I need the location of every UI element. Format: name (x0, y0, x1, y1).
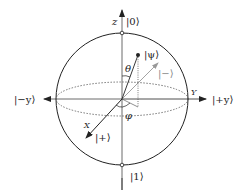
one-state-label: |1⟩ (130, 171, 144, 183)
phi-label: φ (125, 110, 132, 121)
z-axis-label: z (111, 16, 118, 27)
minus-state-label: |−⟩ (158, 68, 174, 80)
y-axis-label: Y (191, 88, 197, 97)
psi-point (136, 53, 140, 57)
x-axis-label: X (83, 121, 90, 130)
psi-label: |ψ⟩ (144, 49, 159, 61)
theta-label: θ (125, 63, 131, 74)
zero-state-label: |0⟩ (126, 16, 140, 28)
plus-y-state-label: |+y⟩ (212, 94, 233, 106)
minus-y-state-label: |−y⟩ (14, 94, 35, 106)
theta-arc (122, 76, 130, 77)
south-pole-dot (120, 163, 124, 167)
plus-state-label: |+⟩ (95, 132, 111, 144)
north-pole-dot (120, 31, 124, 35)
bloch-sphere-diagram: z |0⟩ |1⟩ |−y⟩ |+y⟩ Y X |+⟩ |ψ⟩ |−⟩ θ φ (0, 0, 241, 194)
